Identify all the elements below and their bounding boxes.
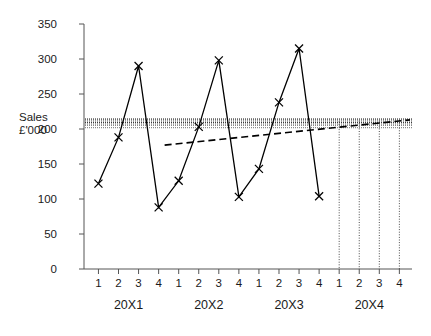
x-tick-label-8: 1 xyxy=(256,277,262,289)
x-tick-label-14: 3 xyxy=(376,277,382,289)
year-label-20X4: 20X4 xyxy=(355,298,384,312)
projection-drop-line-group xyxy=(339,120,399,269)
x-axis-year-labels: 20X120X220X320X4 xyxy=(114,298,384,312)
x-tick-label-10: 3 xyxy=(296,277,302,289)
data-point-marker-8 xyxy=(255,165,263,173)
x-tick-label-4: 1 xyxy=(175,277,181,289)
x-tick-label-13: 2 xyxy=(356,277,362,289)
y-tick-label-100: 100 xyxy=(38,193,57,205)
data-point-marker-1 xyxy=(115,133,123,141)
data-point-marker-9 xyxy=(275,98,283,106)
x-tick-label-1: 2 xyxy=(115,277,121,289)
y-tick-label-350: 350 xyxy=(38,18,57,30)
data-point-marker-4 xyxy=(175,177,183,185)
x-tick-label-7: 4 xyxy=(236,277,243,289)
data-point-marker-5 xyxy=(195,123,203,131)
x-tick-label-15: 4 xyxy=(396,277,403,289)
year-label-20X2: 20X2 xyxy=(194,298,223,312)
x-tick-label-2: 3 xyxy=(135,277,141,289)
x-tick-label-3: 4 xyxy=(155,277,162,289)
y-axis-ticks: 350 300 250 200 150 100 50 0 xyxy=(38,18,84,275)
y-tick-label-50: 50 xyxy=(44,228,57,240)
y-tick-label-300: 300 xyxy=(38,53,57,65)
x-tick-label-6: 3 xyxy=(216,277,222,289)
sales-trend-chart: Sales £'000 350 300 250 200 150 100 50 0 xyxy=(0,0,431,336)
x-tick-label-9: 2 xyxy=(276,277,282,289)
y-axis-title-line1: Sales xyxy=(19,111,48,123)
x-tick-label-11: 4 xyxy=(316,277,323,289)
x-tick-label-0: 1 xyxy=(95,277,101,289)
data-point-markers xyxy=(94,45,323,212)
y-tick-label-0: 0 xyxy=(51,263,57,275)
y-tick-label-150: 150 xyxy=(38,158,57,170)
x-tick-label-5: 2 xyxy=(196,277,202,289)
year-label-20X1: 20X1 xyxy=(114,298,143,312)
chart-canvas: Sales £'000 350 300 250 200 150 100 50 0 xyxy=(0,0,431,336)
y-tick-label-250: 250 xyxy=(38,88,57,100)
x-axis-ticks: 1234123412341234 xyxy=(95,269,403,289)
data-point-marker-0 xyxy=(94,180,102,188)
reference-band-group xyxy=(85,119,412,128)
x-tick-label-12: 1 xyxy=(336,277,342,289)
year-label-20X3: 20X3 xyxy=(274,298,303,312)
y-tick-label-200: 200 xyxy=(38,123,57,135)
